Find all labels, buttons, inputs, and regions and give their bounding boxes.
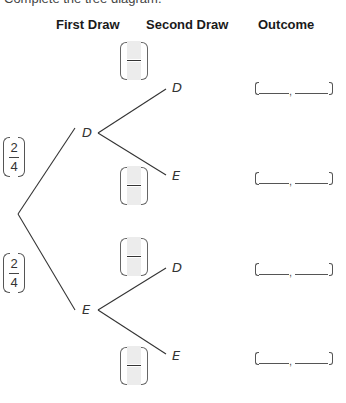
paren-right	[141, 238, 148, 276]
outcome-first-blank[interactable]	[259, 93, 289, 94]
branch-D-to-D	[98, 89, 166, 133]
outcome-second-blank[interactable]	[295, 93, 328, 94]
numerator: 2	[10, 141, 17, 155]
paren-left	[120, 167, 127, 205]
numerator-input[interactable]	[127, 166, 141, 184]
denominator: 4	[10, 276, 17, 290]
paren-left	[120, 238, 127, 276]
node-second-EE: E	[172, 348, 180, 363]
outcome-first-blank[interactable]	[259, 363, 289, 364]
comma: ,	[289, 175, 292, 187]
outcome-row-1[interactable]: ,	[255, 82, 333, 96]
outcome-row-3[interactable]: ,	[255, 263, 333, 277]
second-draw-probability-ED[interactable]	[120, 236, 148, 278]
paren-close	[329, 82, 333, 95]
outcome-second-blank[interactable]	[295, 183, 328, 184]
tree-branches	[0, 0, 346, 403]
outcome-first-blank[interactable]	[259, 274, 289, 275]
comma: ,	[289, 355, 292, 367]
paren-left	[120, 42, 127, 80]
node-second-DD: D	[172, 80, 182, 95]
paren-close	[329, 352, 333, 365]
second-draw-probability-DD[interactable]	[120, 40, 148, 82]
paren-left	[120, 347, 127, 385]
fraction-bar	[127, 365, 141, 366]
second-draw-probability-EE[interactable]	[120, 345, 148, 387]
node-first-E: E	[82, 302, 90, 317]
fraction-bar	[127, 185, 141, 186]
first-draw-probability-E: 2 4	[3, 253, 25, 293]
node-second-ED: D	[172, 260, 182, 275]
fraction-bar	[127, 256, 141, 257]
numerator-input[interactable]	[127, 346, 141, 364]
first-draw-probability-D: 2 4	[3, 137, 25, 177]
outcome-second-blank[interactable]	[295, 274, 328, 275]
outcome-row-2[interactable]: ,	[255, 172, 333, 186]
comma: ,	[289, 266, 292, 278]
branch-root-to-D	[18, 128, 75, 214]
node-first-D: D	[82, 125, 92, 140]
node-second-DE: E	[172, 168, 180, 183]
second-draw-probability-DE[interactable]	[120, 165, 148, 207]
branch-root-to-E	[18, 214, 75, 310]
paren-close	[329, 172, 333, 185]
comma: ,	[289, 85, 292, 97]
denominator: 4	[10, 160, 17, 174]
paren-right	[18, 253, 25, 293]
outcome-first-blank[interactable]	[259, 183, 289, 184]
outcome-row-4[interactable]: ,	[255, 352, 333, 366]
paren-left	[3, 137, 10, 177]
numerator: 2	[10, 257, 17, 271]
outcome-second-blank[interactable]	[295, 363, 328, 364]
numerator-input[interactable]	[127, 41, 141, 59]
paren-right	[141, 347, 148, 385]
denominator-input[interactable]	[127, 187, 141, 205]
denominator-input[interactable]	[127, 367, 141, 385]
numerator-input[interactable]	[127, 237, 141, 255]
denominator-input[interactable]	[127, 258, 141, 276]
paren-right	[18, 137, 25, 177]
denominator-input[interactable]	[127, 62, 141, 80]
fraction-bar	[127, 60, 141, 61]
paren-right	[141, 42, 148, 80]
paren-left	[3, 253, 10, 293]
paren-right	[141, 167, 148, 205]
paren-close	[329, 263, 333, 276]
